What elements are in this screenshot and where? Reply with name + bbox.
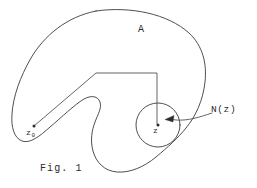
point-label-z0-subscript: 0 [31,132,35,139]
neighborhood-pointer-arrow [169,113,212,120]
point-label-z: z [153,126,158,135]
figure-caption: Fig. 1 [40,163,83,174]
figure-drawing-canvas [0,0,257,188]
point-label-z0: z0 [26,128,36,139]
region-label-a: A [138,24,145,35]
open-set-boundary [12,10,206,173]
figure-container: A z z0 N(z) Fig. 1 [0,0,257,188]
neighborhood-pointer-arrowhead [165,116,174,123]
polygonal-path-z0-to-z [34,73,157,126]
neighborhood-label: N(z) [211,104,236,115]
